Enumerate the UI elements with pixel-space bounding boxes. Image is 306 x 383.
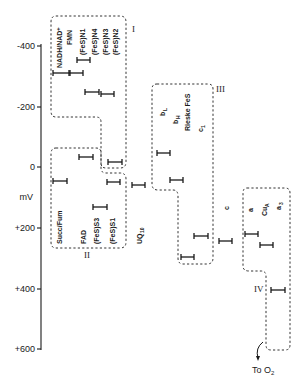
bar-c1: [181, 254, 194, 260]
bar-bl: [157, 150, 170, 156]
label-c1-sub: 1: [200, 125, 206, 128]
to-o2-sub: 2: [271, 370, 275, 376]
tick-label-minus400: -400: [17, 41, 35, 51]
tick-label-0: 0: [30, 162, 35, 172]
label-a: a: [247, 208, 254, 212]
label-bh: b H: [172, 115, 181, 124]
label-bl-main: b: [159, 112, 166, 116]
arrowhead-icon: [256, 356, 260, 361]
label-c: c: [223, 206, 230, 210]
tick-label-plus400: +400: [15, 284, 35, 294]
bar-fes-n2: [108, 159, 122, 165]
bar-fes-n4: [85, 89, 99, 95]
label-fes-n2: (FeS)N2: [112, 28, 120, 55]
label-cua-main: Cu: [261, 207, 268, 216]
label-a3-sub: 3: [278, 202, 284, 205]
label-a3-main: a: [275, 206, 282, 210]
label-bl: b L: [159, 108, 168, 116]
complex-iv-label: IV: [254, 284, 264, 294]
bar-succ-fum: [53, 178, 67, 184]
label-bh-sub: H: [175, 115, 181, 119]
bar-c: [219, 238, 232, 244]
label-uq10: UQ 10: [136, 227, 145, 244]
label-uq: UQ: [136, 233, 144, 244]
bar-nadh: [53, 70, 69, 76]
bar-a: [245, 231, 258, 237]
to-o2-label: To O2: [252, 365, 275, 376]
to-o2-main: To O: [252, 365, 271, 375]
bar-bh: [170, 177, 183, 183]
complex-iii-label: III: [216, 84, 225, 94]
tick-label-minus200: -200: [17, 102, 35, 112]
label-fes-n1: (FeS)N1: [79, 28, 87, 55]
label-fes-n4: (FeS)N4: [91, 28, 99, 55]
axis-unit-label: mV: [20, 192, 34, 202]
label-fes-n3: (FeS)N3: [102, 28, 110, 55]
bar-rieske: [194, 233, 208, 239]
label-c1: c 1: [197, 125, 206, 132]
label-fes-s3: (FeS)S3: [93, 218, 101, 244]
bar-uq10: [132, 182, 145, 188]
bar-fes-n1: [77, 57, 90, 63]
label-uq-sub: 10: [139, 227, 145, 233]
label-rieske: Rieske FeS: [184, 93, 191, 131]
bar-a3: [271, 287, 285, 293]
tick-label-plus200: +200: [15, 223, 35, 233]
complex-ii-label: II: [84, 250, 90, 260]
label-bl-sub: L: [162, 108, 168, 111]
bar-cua: [260, 242, 273, 248]
bar-fad: [79, 154, 93, 160]
bar-fmn: [69, 70, 83, 76]
label-succ-fum: Succ/Fum: [56, 211, 63, 244]
label-cua-sub: A: [264, 203, 270, 207]
y-axis: -400 -200 0 +200 +400 +600 mV: [15, 41, 41, 354]
label-cua: Cu A: [261, 203, 270, 216]
label-fmn: FMN: [66, 30, 73, 45]
label-fad: FAD: [80, 230, 87, 244]
label-fes-s1: (FeS)S1: [109, 218, 117, 244]
label-nadh: NADH/NAD⁺: [56, 27, 63, 68]
label-bh-main: b: [172, 120, 179, 124]
bar-fes-n3: [101, 91, 114, 97]
arrow-to-o2-icon: [257, 342, 263, 358]
complex-i-label: I: [132, 24, 135, 34]
tick-label-plus600: +600: [15, 344, 35, 354]
label-a3: a 3: [275, 202, 284, 210]
bar-fes-s1: [107, 179, 120, 185]
bar-fes-s3: [93, 204, 107, 210]
